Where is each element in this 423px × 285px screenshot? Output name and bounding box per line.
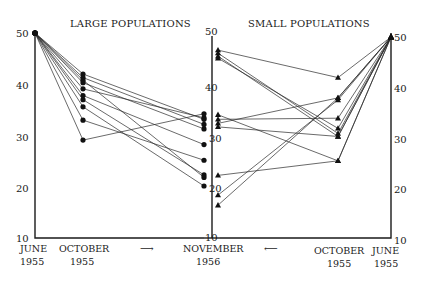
svg-text:50: 50 xyxy=(394,32,407,43)
data-point-circle xyxy=(201,183,206,188)
svg-text:40: 40 xyxy=(205,82,218,93)
chart-canvas: LARGE POPULATIONS SMALL POPULATIONS 50 4… xyxy=(0,0,423,285)
data-point-circle xyxy=(201,142,206,147)
data-point-circle xyxy=(201,172,206,177)
data-point-triangle xyxy=(335,125,341,130)
svg-text:20: 20 xyxy=(394,184,407,195)
svg-text:30: 30 xyxy=(16,132,29,143)
data-point-circle xyxy=(32,30,37,35)
svg-text:1955: 1955 xyxy=(70,256,94,267)
data-point-circle xyxy=(201,126,206,131)
svg-text:50: 50 xyxy=(205,26,218,37)
svg-text:JUNE: JUNE xyxy=(371,245,399,256)
svg-text:1956: 1956 xyxy=(196,256,220,267)
svg-text:40: 40 xyxy=(394,83,407,94)
svg-text:20: 20 xyxy=(16,183,29,194)
svg-text:10: 10 xyxy=(205,232,218,243)
svg-text:40: 40 xyxy=(16,80,29,91)
data-point-triangle xyxy=(335,115,341,120)
svg-text:20: 20 xyxy=(209,183,222,194)
svg-text:NOVEMBER: NOVEMBER xyxy=(183,243,244,254)
svg-text:1955: 1955 xyxy=(327,258,351,269)
data-point-circle xyxy=(80,80,85,85)
data-point-circle xyxy=(80,86,85,91)
svg-text:JUNE: JUNE xyxy=(19,243,47,254)
svg-text:OCTOBER: OCTOBER xyxy=(59,243,110,254)
arrow-left: ⟵ xyxy=(264,243,278,254)
data-point-circle xyxy=(80,118,85,123)
data-point-circle xyxy=(201,158,206,163)
data-point-circle xyxy=(80,104,85,109)
right-y-axis xyxy=(220,33,391,238)
data-point-triangle xyxy=(215,202,221,207)
data-point-circle xyxy=(80,97,85,102)
left-tick-labels: 50 40 30 20 10 xyxy=(16,28,29,244)
svg-text:1955: 1955 xyxy=(374,258,398,269)
svg-text:1955: 1955 xyxy=(20,256,44,267)
data-point-circle xyxy=(201,122,206,127)
x-axis-labels: JUNE 1955 OCTOBER 1955 ⟶ NOVEMBER 1956 ⟵… xyxy=(19,243,399,269)
large-populations-series xyxy=(32,30,206,188)
left-panel-title: LARGE POPULATIONS xyxy=(70,18,191,29)
data-point-circle xyxy=(201,111,206,116)
svg-text:30: 30 xyxy=(394,134,407,145)
small-populations-series xyxy=(215,34,394,208)
data-point-circle xyxy=(80,138,85,143)
svg-text:50: 50 xyxy=(16,28,29,39)
svg-text:OCTOBER: OCTOBER xyxy=(314,245,365,256)
svg-text:30: 30 xyxy=(209,133,222,144)
right-panel-title: SMALL POPULATIONS xyxy=(248,18,370,29)
right-tick-labels: 50 40 30 20 10 xyxy=(394,32,407,246)
arrow-right: ⟶ xyxy=(140,243,154,254)
